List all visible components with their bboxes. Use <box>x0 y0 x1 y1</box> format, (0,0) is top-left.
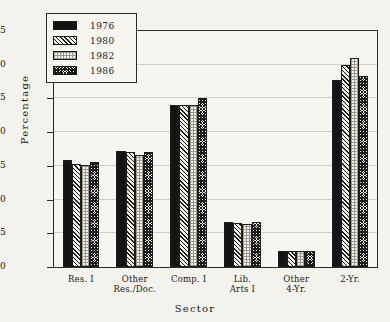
bar-group <box>332 31 369 267</box>
legend-label: 1986 <box>90 66 115 76</box>
legend-label: 1976 <box>90 21 115 31</box>
bar <box>126 152 135 267</box>
y-tick-label: 0 <box>0 261 6 271</box>
y-tick-label: 35 <box>0 25 6 35</box>
bar <box>198 98 207 267</box>
bar <box>189 105 198 267</box>
bar <box>116 151 125 267</box>
y-tick-label: 30 <box>0 59 6 69</box>
x-tick-label-line: 4-Yr. <box>258 284 334 294</box>
bar <box>179 105 188 267</box>
bar <box>332 80 341 267</box>
bar <box>359 76 368 267</box>
legend-item: 1980 <box>53 33 136 48</box>
y-tick-label: 5 <box>0 227 6 237</box>
y-tick-label: 20 <box>0 126 6 136</box>
legend-swatch <box>53 66 77 75</box>
x-tick-label: 2-Yr. <box>312 274 388 284</box>
bar <box>90 162 99 267</box>
legend-item: 1976 <box>53 18 136 33</box>
bar <box>242 224 251 267</box>
legend-label: 1980 <box>90 36 115 46</box>
legend-swatch <box>53 51 77 60</box>
bar <box>170 105 179 267</box>
y-tick-label: 10 <box>0 194 6 204</box>
bar-group <box>278 31 315 267</box>
legend-item: 1982 <box>53 48 136 63</box>
bar-chart: Percentage 05101520253035 Res. IOtherRes… <box>0 0 390 322</box>
y-tick-label: 15 <box>0 160 6 170</box>
y-axis-title: Percentage <box>19 40 30 180</box>
bar <box>63 160 72 267</box>
y-tick-label: 25 <box>0 92 6 102</box>
bar-group <box>170 31 207 267</box>
bar <box>350 58 359 267</box>
bar <box>135 155 144 267</box>
bar <box>287 251 296 267</box>
bar-group <box>224 31 261 267</box>
legend-item: 1986 <box>53 63 136 78</box>
bar <box>305 251 314 267</box>
legend-label: 1982 <box>90 51 115 61</box>
bar <box>233 223 242 268</box>
x-tick-label-line: 2-Yr. <box>312 274 388 284</box>
legend-swatch <box>53 36 77 45</box>
legend: 1976198019821986 <box>46 13 137 83</box>
bar <box>224 222 233 267</box>
bar <box>72 164 81 267</box>
bar <box>278 251 287 267</box>
bar <box>341 65 350 267</box>
legend-swatch <box>53 21 77 30</box>
bar <box>144 152 153 267</box>
bar <box>81 165 90 267</box>
x-axis-title: Sector <box>0 303 390 314</box>
x-tick-label-line: Res./Doc. <box>97 284 173 294</box>
bar <box>252 222 261 267</box>
bar <box>296 251 305 267</box>
